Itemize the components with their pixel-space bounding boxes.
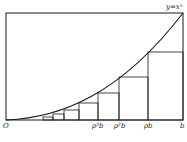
bounding-frame [6, 13, 183, 120]
inscribed-rectangle [148, 52, 183, 120]
inscribed-rectangle [119, 77, 148, 120]
curve-y-equals-x-n [6, 13, 183, 120]
inscribed-rectangle [64, 110, 79, 120]
inscribed-rectangle [53, 114, 64, 120]
origin-label: O [3, 123, 9, 130]
x-label-rhob: ρb [144, 123, 153, 130]
inscribed-rectangle [79, 103, 98, 120]
x-label-rho3b: ρ³b [92, 123, 103, 130]
inscribed-rectangle [98, 93, 119, 120]
curve-label: y=xⁿ [166, 4, 183, 11]
fermat-quadrature-diagram [0, 0, 187, 142]
x-label-b: b [180, 123, 184, 130]
inscribed-rectangles [43, 52, 183, 120]
x-label-rho2b: ρ²b [114, 123, 125, 130]
